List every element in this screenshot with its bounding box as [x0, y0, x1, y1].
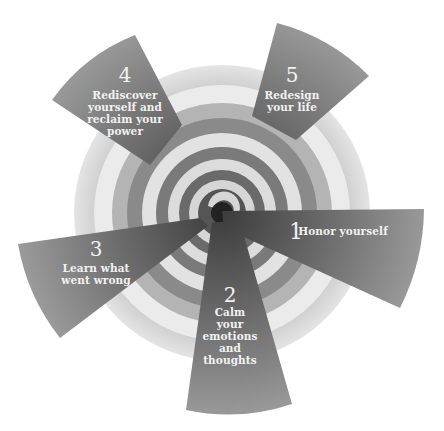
step-5-text-line-1: Redesign [264, 89, 319, 101]
step-2-text-line-1: Calm [215, 306, 246, 318]
step-4-text-line-1: Rediscover [92, 89, 158, 101]
step-4-text-line-4: power [107, 125, 143, 137]
wedge-step-5 [252, 23, 369, 140]
step-2-number: 2 [224, 283, 237, 307]
step-2-text-line-3: emotions [203, 330, 258, 342]
step-3-text-line-1: Learn what [62, 262, 129, 274]
step-2-text-line-5: thoughts [203, 354, 257, 366]
step-2-text-line-2: your [216, 318, 244, 330]
step-5-number: 5 [286, 63, 299, 87]
step-3-number: 3 [90, 237, 103, 261]
step-3-text-line-2: went wrong [60, 274, 131, 286]
five-step-spiral-diagram: 1 Honor yourself 2 Calm your emotions an… [0, 0, 444, 431]
step-4-number: 4 [119, 63, 132, 87]
step-1-text: Honor yourself [298, 225, 389, 237]
step-4-text-line-2: yourself and [87, 101, 163, 113]
step-5-text-line-2: your life [266, 101, 317, 113]
step-2-text-line-4: and [219, 342, 242, 354]
step-4-text-line-3: reclaim your [87, 113, 163, 125]
